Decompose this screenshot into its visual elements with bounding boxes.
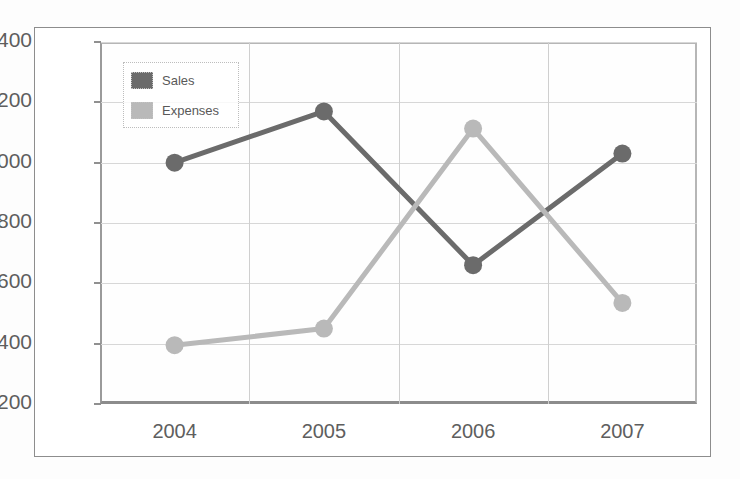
y-axis-tick-label: 1000 <box>0 149 32 173</box>
chart-legend: Sales Expenses <box>123 62 239 128</box>
y-axis-tick-mark <box>94 162 101 164</box>
line-chart-figure: 200400600800100012001400 200420052006200… <box>0 0 740 479</box>
y-axis-tick-mark <box>94 282 101 284</box>
y-axis-tick-mark <box>94 101 101 103</box>
y-axis-tick-label: 1400 <box>0 28 32 52</box>
legend-swatch-sales <box>131 72 153 89</box>
legend-item-sales: Sales <box>131 67 195 93</box>
y-axis-tick-label: 600 <box>0 269 32 293</box>
x-axis-tick-label: 2006 <box>413 420 533 443</box>
x-axis-tick-label: 2005 <box>264 420 384 443</box>
gridline-vertical <box>548 42 549 404</box>
x-axis-tick-label: 2004 <box>115 420 235 443</box>
y-axis-tick-mark <box>94 343 101 345</box>
y-axis-tick-label: 200 <box>0 390 32 414</box>
y-axis-tick-mark <box>94 222 101 224</box>
y-axis-tick-label: 400 <box>0 330 32 354</box>
x-axis-tick-label: 2007 <box>562 420 682 443</box>
y-axis-tick-label: 1200 <box>0 88 32 112</box>
y-axis-tick-mark <box>94 403 101 405</box>
y-axis-tick-mark <box>94 41 101 43</box>
legend-label-expenses: Expenses <box>162 103 219 118</box>
gridline-vertical <box>399 42 400 404</box>
y-axis-tick-label: 800 <box>0 209 32 233</box>
legend-swatch-expenses <box>131 102 153 119</box>
legend-label-sales: Sales <box>162 73 195 88</box>
gridline-vertical <box>249 42 250 404</box>
legend-item-expenses: Expenses <box>131 97 219 123</box>
